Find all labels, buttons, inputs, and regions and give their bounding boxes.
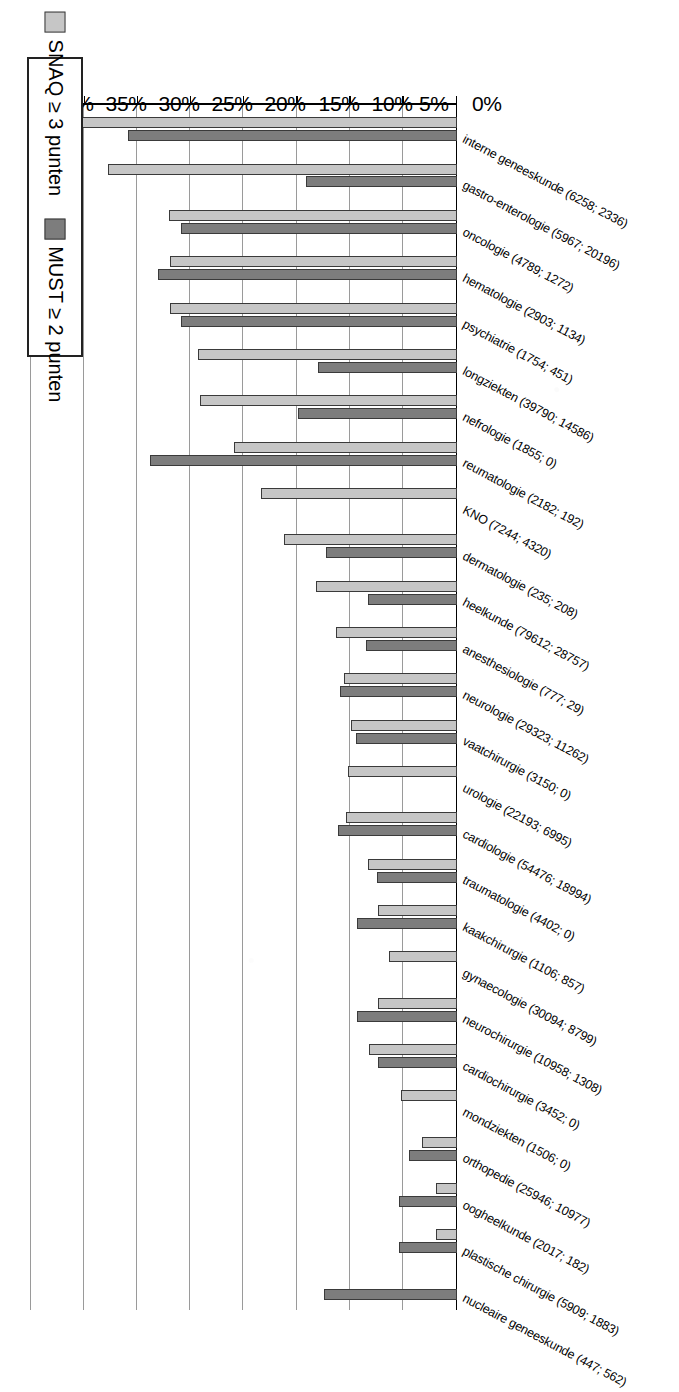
bar-snaq (55, 117, 457, 128)
rotated-scan-wrapper: 0%5%10%15%20%25%30%35%40% interne genees… (0, 0, 679, 1392)
bar-snaq (378, 998, 457, 1009)
bar-must (338, 825, 457, 836)
axis-tick-label: 10% (371, 92, 412, 116)
bar-must (324, 1289, 457, 1300)
bar-must (306, 177, 457, 188)
bar-must (150, 455, 457, 466)
bar-must (378, 1057, 457, 1068)
bar-snaq (436, 1229, 457, 1240)
bar-must (399, 1242, 457, 1253)
bar-snaq (170, 256, 457, 267)
bar-must (181, 223, 457, 234)
legend-label: SNAQ ≥ 3 punten (44, 40, 67, 197)
bar-chart: 0%5%10%15%20%25%30%35%40% interne genees… (0, 0, 679, 1392)
axis-tick-label: 25% (212, 92, 253, 116)
bar-must (366, 640, 457, 651)
bar-must (158, 269, 457, 280)
bar-snaq (234, 442, 457, 453)
bar-snaq (169, 210, 457, 221)
bar-snaq (401, 1090, 457, 1101)
bar-snaq (369, 1044, 457, 1055)
category-label: plastische chirurgie (5909; 1883) (460, 1244, 621, 1338)
gridline (83, 105, 84, 1310)
category-label: gastro-enterologie (5967; 20196) (460, 178, 622, 273)
category-label: interne geneeskunde (6258; 2336) (460, 132, 630, 231)
axis-tick-label: 15% (318, 92, 359, 116)
bar-must (326, 547, 457, 558)
legend-item[interactable]: MUST ≥ 2 punten (44, 218, 67, 402)
legend-item[interactable]: SNAQ ≥ 3 punten (44, 12, 67, 197)
legend-label: MUST ≥ 2 punten (44, 246, 67, 402)
category-label: nucleaire geneeskunde (447; 562) (460, 1291, 628, 1389)
bar-must (340, 686, 457, 697)
bar-snaq (351, 720, 457, 731)
gridline (349, 105, 350, 1310)
gridline (243, 105, 244, 1310)
axis-tick-label: 20% (265, 92, 306, 116)
chart-legend: SNAQ ≥ 3 puntenMUST ≥ 2 punten (27, 57, 83, 357)
axis-tick-label: 30% (159, 92, 200, 116)
bar-must (298, 408, 457, 419)
plot-area (32, 105, 457, 1310)
gridline (402, 105, 403, 1310)
gridline (189, 105, 190, 1310)
bar-must (357, 918, 457, 929)
bar-must (399, 1196, 457, 1207)
bar-snaq (284, 534, 457, 545)
legend-swatch-snaq (45, 12, 66, 33)
bar-must (128, 130, 457, 141)
bar-must (368, 594, 457, 605)
bar-snaq (389, 951, 457, 962)
axis-tick-label: 5% (419, 92, 449, 116)
gridline (296, 105, 297, 1310)
bar-snaq (368, 859, 457, 870)
bar-snaq (200, 395, 457, 406)
category-label: neurochirurgie (10958; 1308) (460, 1012, 604, 1097)
bar-snaq (170, 303, 457, 314)
bar-snaq (348, 766, 457, 777)
bar-must (356, 733, 457, 744)
bar-must (318, 362, 457, 373)
bar-snaq (198, 349, 457, 360)
axis-tick-label: 35% (106, 92, 147, 116)
bar-snaq (262, 488, 458, 499)
bar-snaq (109, 164, 458, 175)
axis-tick-label: 0% (472, 92, 502, 116)
bar-must (409, 1150, 457, 1161)
bar-snaq (344, 673, 457, 684)
gridline (136, 105, 137, 1310)
bar-must (181, 316, 457, 327)
bar-snaq (436, 1183, 457, 1194)
bar-snaq (422, 1137, 457, 1148)
bar-snaq (316, 581, 457, 592)
bar-must (357, 1011, 457, 1022)
bar-snaq (347, 812, 458, 823)
bar-snaq (378, 905, 457, 916)
bar-must (377, 872, 457, 883)
legend-swatch-must (45, 218, 66, 239)
axis-tick (456, 96, 457, 105)
bar-snaq (336, 627, 457, 638)
